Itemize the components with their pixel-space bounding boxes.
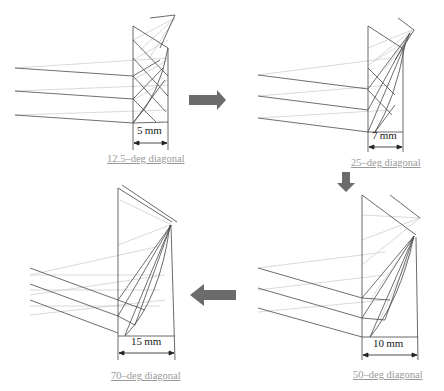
arrow-down-icon [337,172,355,192]
dimension-label-25-deg: 7 mm [372,129,397,141]
optical-diagram-canvas [0,0,444,391]
panel-50-deg-diagram [258,195,420,360]
caption-70-deg-diagonal: 70–deg diagonal [111,370,181,381]
dimension-label-70-deg: 15 mm [131,335,161,347]
dimension-label-50-deg: 10 mm [373,337,403,349]
caption-12-5-deg-diagonal: 12.5–deg diagonal [107,153,185,164]
caption-50-deg-diagonal: 50–deg diagonal [353,369,423,380]
dimension-label-12-5-deg: 5 mm [137,124,162,136]
panel-70-deg-diagram [30,185,177,360]
arrow-left-icon [190,284,236,306]
arrow-right-icon [189,90,226,110]
caption-25-deg-diagonal: 25–deg diagonal [351,157,421,168]
